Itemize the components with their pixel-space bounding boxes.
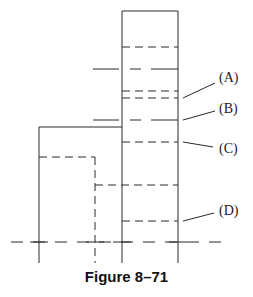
leader-line-c [183, 142, 213, 147]
leader-line-d [183, 213, 214, 221]
label-a: (A) [219, 70, 239, 86]
tall-tower [122, 11, 178, 263]
inner-hidden-box [39, 157, 178, 263]
leader-line-b [183, 111, 215, 120]
label-c: (C) [219, 141, 238, 157]
figure-caption: Figure 8–71 [0, 268, 253, 285]
figure-diagram: (A) (B) (C) (D) [0, 0, 253, 297]
left-box [39, 127, 122, 263]
label-d: (D) [219, 203, 239, 219]
leader-line-a [183, 83, 215, 98]
label-b: (B) [219, 101, 238, 117]
